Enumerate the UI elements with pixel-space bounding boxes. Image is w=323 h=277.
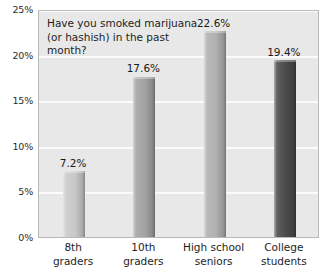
bar-value-label: 7.2%	[43, 158, 103, 169]
gridline	[39, 10, 318, 12]
bar-face	[274, 60, 296, 237]
bar-top-highlight	[133, 77, 155, 79]
bar	[63, 171, 85, 237]
chart-title-line-2: (or hashish) in the past	[47, 31, 227, 45]
y-axis-tick-label: 10%	[12, 142, 33, 152]
bar-value-label: 19.4%	[254, 47, 314, 58]
bar	[133, 77, 155, 238]
bar-value-label: 17.6%	[113, 63, 173, 74]
y-axis-tick-label: 25%	[12, 5, 33, 15]
bar-top-highlight	[274, 60, 296, 62]
y-axis: 0%5%10%15%20%25%	[0, 0, 36, 277]
plot-area: Have you smoked marijuana (or hashish) i…	[38, 10, 319, 238]
y-axis-tick-label: 20%	[12, 51, 33, 61]
bar	[274, 60, 296, 237]
bar-face	[133, 77, 155, 238]
bar-value-label: 22.6%	[184, 18, 244, 29]
x-axis: 8thgraders10thgradersHigh schoolseniorsC…	[38, 240, 319, 277]
bar-face	[63, 171, 85, 237]
x-axis-category-line: students	[242, 254, 323, 268]
bar-chart: 0%5%10%15%20%25% Have you smoked marijua…	[0, 0, 323, 277]
chart-title-line-3: month?	[47, 44, 227, 58]
x-axis-category-line: College	[242, 240, 323, 254]
y-axis-tick-label: 15%	[12, 96, 33, 106]
bar	[204, 31, 226, 237]
bar-face	[204, 31, 226, 237]
y-axis-tick-label: 5%	[18, 187, 33, 197]
bar-top-highlight	[63, 171, 85, 173]
x-axis-category-label: Collegestudents	[242, 240, 323, 268]
